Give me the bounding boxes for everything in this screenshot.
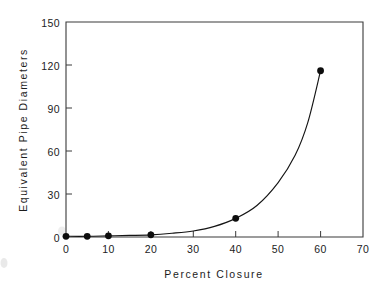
data-point-marker — [232, 215, 239, 222]
data-curve — [66, 71, 321, 237]
x-tick-label: 60 — [314, 243, 326, 255]
y-tick-labels: 0 30 60 90 120 150 — [41, 17, 60, 244]
x-axis-ticks — [108, 231, 320, 237]
plot-frame — [66, 22, 363, 237]
y-tick-label: 90 — [48, 103, 60, 115]
x-tick-label: 20 — [145, 243, 157, 255]
data-point-marker — [317, 67, 324, 74]
x-tick-labels: 0 10 20 30 40 50 60 70 — [63, 243, 369, 255]
x-tick-label: 10 — [102, 243, 114, 255]
x-tick-label: 30 — [187, 243, 199, 255]
data-markers — [63, 67, 324, 239]
y-tick-label: 60 — [48, 146, 60, 158]
chart-canvas: 0 30 60 90 120 150 0 10 20 30 40 50 60 7… — [0, 0, 385, 292]
data-point-marker — [84, 233, 91, 240]
x-tick-label: 70 — [357, 243, 369, 255]
y-tick-label: 0 — [54, 232, 60, 244]
y-axis-ticks — [66, 65, 72, 194]
chart-figure: 0 30 60 90 120 150 0 10 20 30 40 50 60 7… — [0, 0, 385, 292]
y-tick-label: 30 — [48, 189, 60, 201]
x-tick-label: 0 — [63, 243, 69, 255]
data-point-marker — [105, 232, 112, 239]
x-tick-label: 50 — [272, 243, 284, 255]
y-axis-title: Equivalent Pipe Diameters — [17, 48, 29, 212]
data-point-marker — [147, 231, 154, 238]
x-axis-title: Percent Closure — [164, 268, 263, 280]
data-series — [63, 67, 324, 239]
data-point-marker — [63, 233, 70, 240]
y-tick-label: 150 — [41, 17, 60, 29]
x-tick-label: 40 — [229, 243, 241, 255]
y-tick-label: 120 — [41, 60, 60, 72]
